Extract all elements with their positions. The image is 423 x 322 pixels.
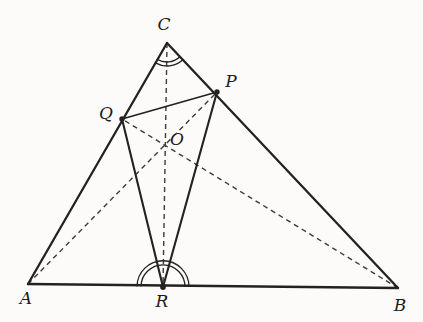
dashed-edge-CR <box>163 43 167 287</box>
angle-mark-C-arc1 <box>158 57 181 62</box>
point-dot-Q <box>119 116 124 121</box>
edge-CB <box>167 43 398 288</box>
solid-edges-group <box>28 43 398 288</box>
point-label-C: C <box>157 14 170 34</box>
edge-AB <box>28 284 398 288</box>
edge-AC <box>28 43 167 284</box>
point-labels-group: ABCPQOR <box>18 14 406 315</box>
edge-PR <box>163 92 217 287</box>
scanned-figure-page: ABCPQOR <box>0 0 423 322</box>
point-label-A: A <box>18 288 32 308</box>
point-label-B: B <box>393 295 407 315</box>
point-label-O: O <box>170 129 184 149</box>
point-label-Q: Q <box>99 103 113 123</box>
point-label-R: R <box>155 291 169 311</box>
point-dot-P <box>214 89 219 94</box>
point-dot-R <box>160 284 166 290</box>
point-label-P: P <box>224 71 237 91</box>
geometry-figure: ABCPQOR <box>0 0 423 322</box>
dashed-cevians-group <box>28 43 398 288</box>
